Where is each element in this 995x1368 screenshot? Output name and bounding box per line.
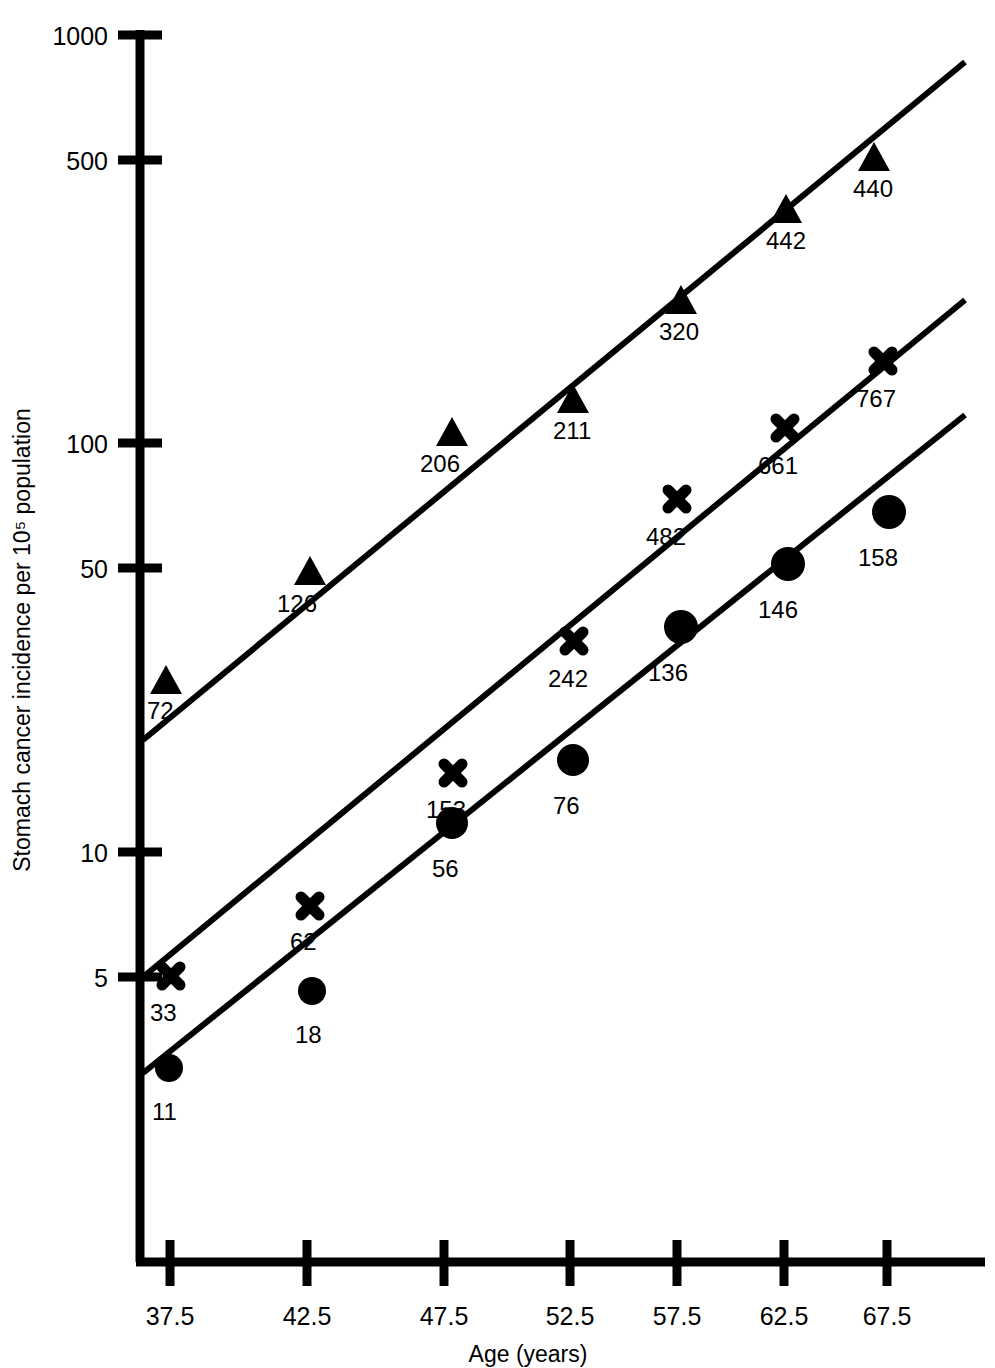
x-tick-label-52-5: 52.5 — [546, 1302, 595, 1330]
data-label-cross-0: 33 — [150, 999, 177, 1026]
data-point-circle-4 — [664, 610, 698, 644]
data-point-circle-2 — [436, 807, 468, 839]
data-label-triangle-0: 72 — [147, 697, 174, 724]
y-tick-label-50: 50 — [80, 555, 108, 583]
y-tick-label-500: 500 — [66, 147, 108, 175]
x-tick-label-37-5: 37.5 — [146, 1302, 195, 1330]
data-label-cross-3: 242 — [548, 665, 588, 692]
x-tick-label-67-5: 67.5 — [863, 1302, 912, 1330]
x-tick-label-62-5: 62.5 — [760, 1302, 809, 1330]
data-label-circle-6: 158 — [858, 544, 898, 571]
x-tick-label-57-5: 57.5 — [653, 1302, 702, 1330]
chart-figure: 1000 500 100 50 10 5 37.5 42.5 47.5 52.5… — [0, 0, 995, 1368]
y-tick-label-10: 10 — [80, 839, 108, 867]
data-point-circle-5 — [771, 547, 805, 581]
y-axis-title: Stomach cancer incidence per 10⁵ populat… — [9, 408, 35, 871]
data-label-cross-5: 661 — [758, 452, 798, 479]
x-axis-title: Age (years) — [469, 1341, 588, 1367]
data-point-cross-2 — [444, 764, 462, 782]
x-tick-label-47-5: 47.5 — [420, 1302, 469, 1330]
data-label-triangle-1: 126 — [277, 590, 317, 617]
data-label-circle-1: 18 — [295, 1021, 322, 1048]
data-label-triangle-5: 442 — [766, 227, 806, 254]
data-label-triangle-2: 206 — [420, 450, 460, 477]
y-tick-label-1000: 1000 — [52, 22, 108, 50]
y-tick-label-100: 100 — [66, 430, 108, 458]
data-point-circle-6 — [872, 495, 906, 529]
data-label-cross-1: 62 — [290, 928, 317, 955]
data-label-triangle-3: 211 — [553, 417, 591, 444]
data-point-circle-3 — [557, 744, 589, 776]
data-label-circle-0: 11 — [152, 1098, 177, 1125]
data-point-cross-1 — [301, 897, 319, 915]
data-point-circle-1 — [298, 977, 326, 1005]
data-point-cross-0 — [162, 967, 180, 985]
data-point-cross-6 — [874, 352, 892, 370]
data-point-circle-0 — [155, 1054, 183, 1082]
data-label-circle-4: 136 — [648, 659, 688, 686]
data-label-circle-5: 146 — [758, 596, 798, 623]
data-label-triangle-4: 320 — [659, 318, 699, 345]
x-tick-label-42-5: 42.5 — [283, 1302, 332, 1330]
data-label-circle-2: 56 — [432, 855, 459, 882]
data-point-cross-3 — [565, 632, 583, 650]
data-label-triangle-6: 440 — [853, 175, 893, 202]
data-label-circle-3: 76 — [553, 792, 580, 819]
data-label-cross-4: 482 — [646, 523, 686, 550]
data-label-cross-6: 767 — [856, 385, 896, 412]
data-point-cross-5 — [776, 419, 794, 437]
data-point-cross-4 — [668, 490, 686, 508]
y-tick-label-5: 5 — [94, 964, 108, 992]
